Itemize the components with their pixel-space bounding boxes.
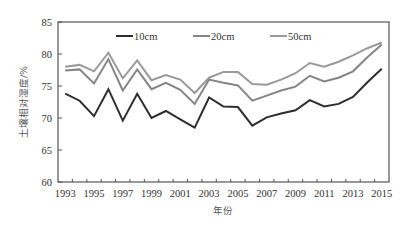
x-tick-label: 2009 — [285, 188, 306, 199]
y-tick-label: 60 — [42, 177, 53, 188]
x-tick-label: 1995 — [83, 188, 104, 199]
series-line-20cm — [65, 44, 382, 104]
soil-moisture-line-chart: 606570758085 199319951997199920012003200… — [0, 0, 406, 230]
plot-frame — [58, 22, 389, 182]
series-line-10cm — [65, 69, 382, 128]
y-axis-ticks: 606570758085 — [42, 17, 63, 188]
x-tick-label: 1997 — [112, 188, 133, 199]
x-tick-label: 2013 — [343, 188, 364, 199]
y-axis-title: 土壤相对湿度/% — [18, 66, 29, 138]
legend-label: 10cm — [134, 31, 157, 42]
x-tick-label: 1993 — [55, 188, 76, 199]
y-tick-label: 65 — [42, 145, 53, 156]
legend-label: 50cm — [288, 31, 311, 42]
series-lines — [65, 43, 382, 128]
legend-item-20cm: 20cm — [193, 31, 234, 42]
legend: 10cm20cm50cm — [116, 31, 311, 42]
y-tick-label: 75 — [42, 81, 53, 92]
x-tick-label: 2007 — [256, 188, 277, 199]
x-tick-label: 2011 — [314, 188, 335, 199]
x-tick-label: 2003 — [199, 188, 220, 199]
x-axis-title: 年份 — [213, 205, 233, 216]
legend-item-50cm: 50cm — [270, 31, 311, 42]
y-tick-label: 70 — [42, 113, 53, 124]
x-tick-label: 2001 — [170, 188, 191, 199]
legend-label: 20cm — [211, 31, 234, 42]
y-tick-label: 85 — [42, 17, 53, 28]
x-tick-label: 2015 — [371, 188, 392, 199]
x-tick-label: 2005 — [227, 188, 248, 199]
y-tick-label: 80 — [42, 49, 53, 60]
legend-item-10cm: 10cm — [116, 31, 157, 42]
x-tick-label: 1999 — [141, 188, 162, 199]
